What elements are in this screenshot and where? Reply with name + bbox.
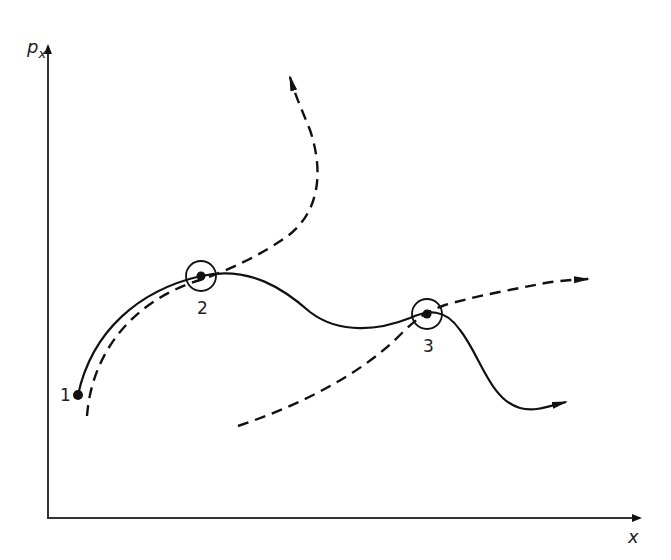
point-1-dot	[73, 390, 83, 400]
point-1-label: 1	[60, 385, 71, 405]
y-axis-label: px	[26, 36, 46, 61]
dashed-trajectory-b	[238, 279, 588, 426]
axes: px x	[26, 36, 640, 547]
point-2: 2	[186, 261, 216, 318]
point-3-dot	[423, 310, 432, 319]
dashed-trajectory-a	[87, 77, 318, 416]
x-axis-label: x	[627, 526, 639, 547]
point-2-label: 2	[197, 298, 208, 318]
point-2-dot	[197, 272, 206, 281]
point-3-label: 3	[423, 336, 434, 356]
phase-space-diagram: px x 1 2 3	[0, 0, 671, 560]
